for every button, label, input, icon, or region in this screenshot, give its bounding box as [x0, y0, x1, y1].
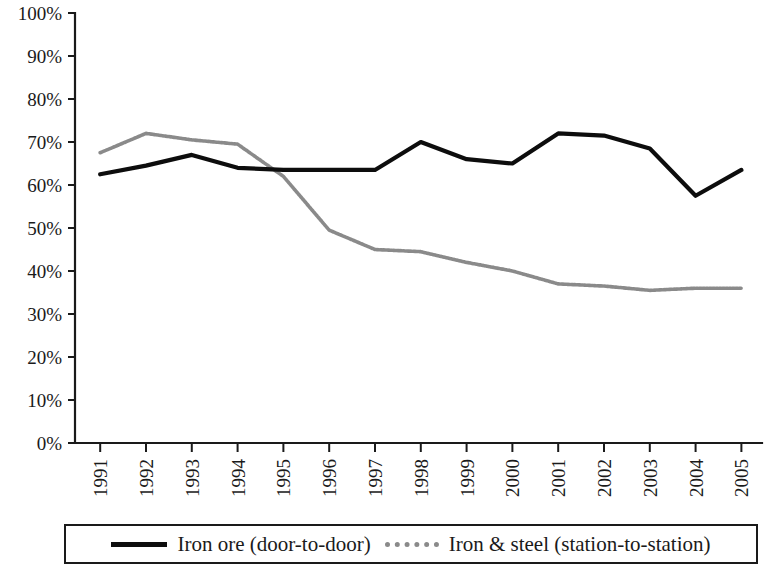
legend-label-iron-and-steel: Iron & steel (station-to-station) — [449, 534, 711, 555]
legend-label-iron-ore: Iron ore (door-to-door) — [177, 534, 370, 555]
series-line-iron-ore — [100, 133, 741, 195]
y-tick-label: 80% — [27, 89, 62, 110]
chart-legend: Iron ore (door-to-door) Iron & steel (st… — [64, 524, 758, 564]
x-tick-label: 1993 — [182, 459, 203, 497]
y-tick-label: 20% — [27, 347, 62, 368]
x-tick-label: 2003 — [640, 459, 661, 497]
legend-item-iron-and-steel: Iron & steel (station-to-station) — [385, 534, 711, 555]
x-tick-label: 1995 — [273, 459, 294, 497]
x-tick-label: 2005 — [731, 459, 752, 497]
axis-lines — [75, 13, 762, 443]
line-chart-figure: 0%10%20%30%40%50%60%70%80%90%100% 199119… — [0, 0, 765, 572]
legend-item-iron-ore: Iron ore (door-to-door) — [111, 534, 370, 555]
y-axis-tick-labels: 0%10%20%30%40%50%60%70%80%90%100% — [18, 3, 63, 454]
x-tick-label: 1997 — [365, 459, 386, 497]
y-tick-label: 90% — [27, 46, 62, 67]
x-tick-label: 1998 — [411, 459, 432, 497]
x-tick-label: 1994 — [228, 459, 249, 498]
x-axis-tick-marks — [100, 443, 741, 452]
x-tick-label: 1992 — [136, 459, 157, 497]
x-tick-label: 2004 — [686, 459, 707, 498]
x-axis-tick-labels: 1991199219931994199519961997199819992000… — [90, 459, 752, 498]
x-tick-label: 2001 — [548, 459, 569, 497]
y-tick-label: 30% — [27, 304, 62, 325]
y-tick-label: 40% — [27, 261, 62, 282]
legend-swatch-solid-black-line-icon — [111, 542, 167, 547]
plot-area: 0%10%20%30%40%50%60%70%80%90%100% 199119… — [0, 0, 765, 520]
legend-swatch-dotted-gray-line-icon — [385, 542, 439, 547]
x-tick-label: 2000 — [502, 459, 523, 497]
x-tick-label: 2002 — [594, 459, 615, 497]
y-tick-label: 70% — [27, 132, 62, 153]
y-tick-label: 60% — [27, 175, 62, 196]
x-tick-label: 1991 — [90, 459, 111, 497]
y-tick-label: 50% — [27, 218, 62, 239]
y-tick-label: 100% — [18, 3, 63, 24]
y-tick-label: 10% — [27, 390, 62, 411]
y-tick-label: 0% — [37, 433, 63, 454]
x-tick-label: 1999 — [457, 459, 478, 497]
x-tick-label: 1996 — [319, 459, 340, 497]
